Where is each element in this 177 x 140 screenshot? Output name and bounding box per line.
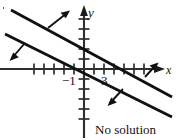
y-axis-label: y xyxy=(88,6,94,19)
y-axis-arrowhead xyxy=(80,5,88,16)
x-tick-label-minus-one: −1 xyxy=(62,74,76,87)
x-tick-label-three: 3 xyxy=(101,74,108,87)
lower-line-arrow-left xyxy=(10,43,26,61)
coordinate-plane-svg xyxy=(0,0,177,140)
no-solution-annotation: No solution xyxy=(95,123,156,136)
upper-line-arrow-left xyxy=(48,11,70,29)
lower-line-arrow-right xyxy=(108,89,124,106)
graph-figure: y x −1 3 No solution xyxy=(0,0,177,140)
x-axis-label: x xyxy=(166,64,171,76)
upper-line xyxy=(11,10,172,97)
